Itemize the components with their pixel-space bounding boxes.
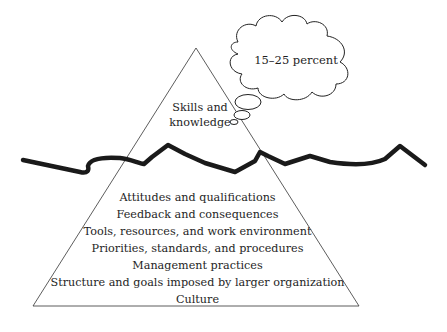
below-water-item: Tools, resources, and work environment bbox=[40, 223, 355, 240]
below-water-item: Attitudes and qualifications bbox=[40, 189, 355, 206]
thought-bubble-text: 15–25 percent bbox=[241, 53, 351, 68]
above-water-label-line1: Skills and bbox=[155, 100, 245, 115]
above-water-label: Skills and knowledge bbox=[155, 100, 245, 130]
below-water-list: Attitudes and qualifications Feedback an… bbox=[40, 189, 355, 308]
above-water-label-line2: knowledge bbox=[155, 115, 245, 130]
below-water-item: Management practices bbox=[40, 257, 355, 274]
below-water-item: Structure and goals imposed by larger or… bbox=[40, 274, 355, 291]
below-water-item: Culture bbox=[40, 291, 355, 308]
below-water-item: Priorities, standards, and procedures bbox=[40, 240, 355, 257]
below-water-item: Feedback and consequences bbox=[40, 206, 355, 223]
waterline bbox=[23, 145, 425, 173]
